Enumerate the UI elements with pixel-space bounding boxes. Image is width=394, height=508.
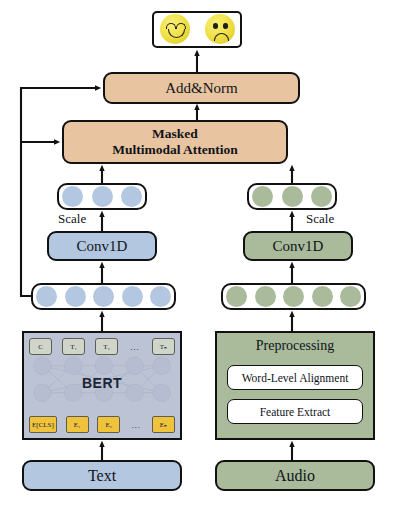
masked-multimodal-attention-block: Masked Multimodal Attention — [62, 120, 288, 164]
audio-scale-label: Scale — [306, 211, 334, 227]
audio-conv1d-block: Conv1D — [243, 231, 353, 261]
bert-embedding-token: E₁ — [66, 416, 89, 433]
text-token-dot — [93, 286, 114, 307]
audio-token-dot — [226, 286, 247, 307]
text-input-block: Text — [22, 460, 182, 491]
feature-extract-label: Feature Extract — [260, 406, 331, 418]
word-level-alignment-label: Word-Level Alignment — [242, 372, 349, 384]
text-token-dot — [122, 286, 143, 307]
feature-extract-block: Feature Extract — [227, 399, 363, 424]
bert-output-token: Tₙ — [152, 338, 175, 355]
text-token-dot — [121, 186, 142, 207]
sad-face-icon — [205, 14, 235, 44]
audio-token-dot — [255, 286, 276, 307]
happy-face-icon — [160, 14, 190, 44]
add-and-norm-block: Add&Norm — [103, 72, 300, 104]
audio-token-dot — [252, 186, 273, 207]
text-token-dot — [62, 186, 83, 207]
text-conv1d-block: Conv1D — [47, 231, 157, 261]
preprocessing-block: Preprocessing Word-Level Alignment Featu… — [215, 331, 375, 440]
audio-token-dot — [283, 286, 304, 307]
attention-label-line2: Multimodal Attention — [112, 142, 238, 158]
bert-output-token: T₁ — [62, 338, 85, 355]
audio-token-dot — [282, 186, 303, 207]
audio-conv1d-label: Conv1D — [273, 238, 324, 255]
bert-output-ellipsis: … — [128, 338, 142, 355]
audio-input-block: Audio — [215, 460, 375, 491]
text-token-dot — [36, 286, 57, 307]
text-token-dot — [92, 186, 113, 207]
add-and-norm-label: Add&Norm — [165, 80, 238, 97]
architecture-diagram: Add&Norm Masked Multimodal Attention Sca… — [0, 0, 394, 508]
bert-block: C T₁ T₂ … Tₙ BERT E[CLS] E₁ E₂ … Eₙ — [22, 331, 182, 440]
bert-embedding-ellipsis: … — [129, 416, 143, 433]
audio-token-dot — [312, 286, 333, 307]
audio-token-dot — [340, 286, 361, 307]
text-token-dot — [65, 286, 86, 307]
preprocessing-label: Preprocessing — [217, 338, 373, 354]
text-conv1d-label: Conv1D — [77, 238, 128, 255]
word-level-alignment-block: Word-Level Alignment — [227, 365, 363, 390]
audio-token-dot — [311, 186, 332, 207]
audio-input-label: Audio — [275, 467, 315, 485]
text-input-label: Text — [88, 467, 116, 485]
audio-embedding-sequence-row — [221, 283, 366, 310]
bert-embedding-token-row: E[CLS] E₁ E₂ … Eₙ — [29, 416, 175, 433]
bert-output-token-row: C T₁ T₂ … Tₙ — [29, 338, 175, 355]
text-scaled-sequence-row — [57, 183, 147, 210]
text-token-dot — [150, 286, 171, 307]
bert-embedding-token: E₂ — [97, 416, 120, 433]
text-scale-label: Scale — [58, 211, 86, 227]
attention-label-line1: Masked — [112, 126, 238, 142]
bert-output-token: T₂ — [95, 338, 118, 355]
bert-output-token: C — [29, 338, 52, 355]
text-embedding-sequence-row — [31, 283, 176, 310]
bert-label: BERT — [24, 375, 180, 391]
bert-embedding-token: Eₙ — [152, 416, 175, 433]
audio-scaled-sequence-row — [247, 183, 337, 210]
bert-embedding-token: E[CLS] — [29, 416, 57, 433]
